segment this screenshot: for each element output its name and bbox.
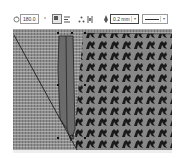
outline-pen-button[interactable]	[103, 12, 109, 26]
shape-nodes-button[interactable]	[77, 12, 86, 26]
rotate-icon	[12, 12, 20, 26]
degree-label: °	[42, 12, 48, 26]
chevron-down-icon: ▾	[131, 16, 137, 22]
houndstooth-fill-region[interactable]	[75, 33, 172, 150]
distribute-button[interactable]	[86, 12, 95, 26]
artwork	[13, 29, 172, 150]
solid-line-preview	[145, 19, 159, 20]
rotation-angle-input[interactable]: 180.0	[20, 14, 39, 24]
drawing-canvas[interactable]	[13, 29, 172, 150]
wrap-text-icon	[52, 14, 62, 24]
align-icon	[64, 16, 70, 23]
outline-width-dropdown[interactable]: 0.2 mm ▾	[110, 14, 139, 24]
selected-shape[interactable]	[58, 36, 75, 141]
chevron-down-icon: ▾	[160, 16, 166, 22]
pen-icon	[104, 15, 108, 23]
shape-nodes-icon	[78, 16, 85, 23]
align-button[interactable]	[63, 12, 71, 26]
line-style-dropdown[interactable]: ▾	[142, 14, 168, 24]
property-toolbar: 180.0 ° 0.2 mm ▾ ▾	[0, 12, 184, 26]
outline-width-value: 0.2 mm	[113, 16, 130, 22]
rotation-angle-value: 180.0	[23, 16, 36, 22]
distribute-icon	[87, 16, 94, 23]
wrap-text-button[interactable]	[52, 12, 62, 26]
canvas-shadow	[13, 150, 172, 153]
